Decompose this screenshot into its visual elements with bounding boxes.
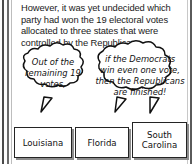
page-gutter: [0, 0, 11, 164]
state-box-label: Florida: [87, 138, 116, 148]
gutter-line-outer: [2, 0, 4, 164]
frame-right-inner-border: [187, 0, 188, 164]
narration-line: controlled by the Republicans.: [21, 37, 183, 49]
state-label-line: Florida: [87, 138, 116, 148]
state-label-line: South: [147, 130, 172, 140]
state-box-label: South Carolina: [133, 130, 186, 150]
speech-bubble-right-text: if the Democrats win even one vote, then…: [94, 54, 186, 98]
state-box-louisiana: Louisiana: [14, 127, 72, 158]
state-box-label: Louisiana: [23, 138, 64, 148]
bubble-line: votes,: [20, 79, 86, 90]
narration-caption: However, it was yet undecided which part…: [21, 2, 183, 48]
bubble-line: if the Democrats: [94, 54, 186, 65]
state-box-florida: Florida: [75, 127, 129, 158]
state-label-line: Louisiana: [23, 138, 64, 148]
bubble-line: Out of the: [20, 57, 86, 68]
comic-panel: However, it was yet undecided which part…: [0, 0, 193, 164]
state-box-south-carolina: South Carolina: [132, 122, 187, 158]
frame-right-border: [190, 0, 192, 164]
bubble-line: win even one vote,: [94, 65, 186, 76]
bubble-line: remaining 19: [20, 68, 86, 79]
narration-line: party had won the 19 electoral votes: [21, 14, 183, 26]
bubble-line: then the Republicans: [94, 76, 186, 87]
narration-line: allocated to three states that were: [21, 25, 183, 37]
narration-line: However, it was yet undecided which: [21, 2, 183, 14]
speech-bubble-left-text: Out of the remaining 19 votes,: [20, 57, 86, 90]
state-label-line: Carolina: [142, 140, 177, 150]
bubble-line: are finished!: [94, 87, 186, 98]
gutter-line-inner: [7, 0, 9, 164]
